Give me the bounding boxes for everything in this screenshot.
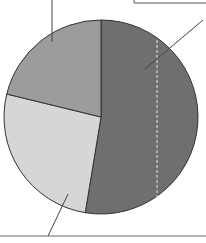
pie-chart (0, 0, 206, 243)
pie-slice-0 (85, 20, 198, 214)
label-box-top-right (134, 0, 206, 3)
